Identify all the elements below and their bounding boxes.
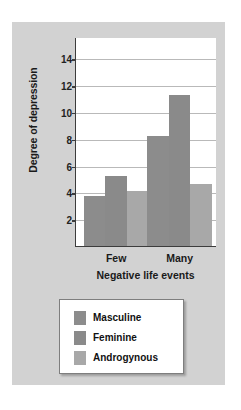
- y-axis-tick-label: 6: [48, 161, 72, 172]
- legend-label: Androgynous: [93, 352, 158, 363]
- y-axis-tick-label: 4: [48, 188, 72, 199]
- gridline: [76, 59, 216, 60]
- gridline: [76, 113, 216, 114]
- y-axis-tick-label: 2: [48, 215, 72, 226]
- x-axis-category-label: Few: [106, 252, 126, 264]
- chart-legend: MasculineFeminineAndrogynous: [59, 299, 184, 374]
- bar: [169, 95, 191, 246]
- gridline: [76, 140, 216, 141]
- y-axis-tick-labels: 2468101214: [48, 38, 72, 263]
- bar: [127, 191, 149, 246]
- y-axis-tick-mark: [72, 140, 76, 141]
- plot-area: FewMany: [75, 38, 216, 247]
- y-axis-tick-mark: [72, 113, 76, 114]
- bar: [147, 136, 169, 246]
- figure-panel: Degree of depression 2468101214 FewMany …: [12, 22, 225, 385]
- legend-label: Feminine: [93, 332, 137, 343]
- y-axis-title: Degree of depression: [27, 61, 39, 179]
- y-axis-tick-mark: [72, 167, 76, 168]
- legend-swatch-icon: [74, 311, 86, 325]
- bar: [84, 196, 106, 246]
- legend-label: Masculine: [93, 312, 141, 323]
- y-axis-tick-mark: [72, 59, 76, 60]
- gridline: [76, 86, 216, 87]
- y-axis-tick-label: 14: [48, 54, 72, 65]
- y-axis-tick-mark: [72, 86, 76, 87]
- bar-chart: Degree of depression 2468101214 FewMany …: [12, 22, 225, 262]
- x-axis-category-label: Many: [166, 252, 193, 264]
- legend-swatch-icon: [74, 331, 86, 345]
- y-axis-tick-mark: [72, 193, 76, 194]
- x-axis-title: Negative life events: [75, 269, 216, 281]
- bar: [105, 176, 127, 246]
- y-axis-tick-mark: [72, 220, 76, 221]
- y-axis-tick-label: 8: [48, 134, 72, 145]
- bar: [190, 184, 212, 246]
- legend-item: Feminine: [74, 329, 137, 346]
- legend-item: Androgynous: [74, 349, 158, 366]
- gridline: [76, 167, 216, 168]
- y-axis-tick-label: 10: [48, 108, 72, 119]
- legend-item: Masculine: [74, 309, 141, 326]
- y-axis-tick-label: 12: [48, 81, 72, 92]
- legend-swatch-icon: [74, 351, 86, 365]
